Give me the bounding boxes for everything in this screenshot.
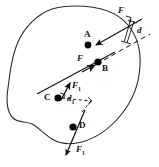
- label-distance-d1-sub: 1: [72, 99, 75, 105]
- label-point-C: C: [44, 93, 51, 102]
- point-D-dot: [69, 123, 76, 130]
- label-point-A: A: [84, 30, 91, 39]
- label-point-D: D: [79, 121, 86, 130]
- label-distance-d1: d1: [67, 94, 75, 105]
- label-force-F-top: F: [118, 6, 124, 15]
- label-force-F1-at-C: F1: [72, 81, 81, 92]
- point-A-dot: [85, 42, 92, 49]
- label-force-F1-at-C-sub: 1: [78, 86, 81, 92]
- label-force-F1-at-D-sub: 1: [82, 150, 85, 156]
- label-force-F1-at-D: F1: [76, 145, 85, 156]
- point-C-dot: [54, 94, 61, 101]
- right-angle-marker: [126, 16, 131, 22]
- label-force-F-at-B: F: [77, 54, 83, 63]
- label-point-B: B: [102, 64, 108, 73]
- label-distance-d: d: [137, 26, 142, 35]
- point-B-dot: [94, 58, 101, 65]
- figure-canvas: A B C D F F F1 F1 d d1: [0, 0, 159, 167]
